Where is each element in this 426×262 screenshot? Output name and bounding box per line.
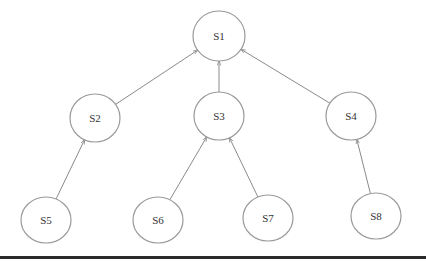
node-label: S6 <box>152 214 164 226</box>
node-label: S8 <box>370 210 382 222</box>
node-s7: S7 <box>243 195 293 241</box>
node-s4: S4 <box>326 92 376 140</box>
node-s1: S1 <box>193 11 245 61</box>
edge-s6-to-s3 <box>170 137 207 200</box>
tree-diagram: S1S2S3S4S5S6S7S8 <box>0 0 426 262</box>
edge-s8-to-s4 <box>357 139 371 193</box>
edge-s5-to-s2 <box>56 140 84 199</box>
node-label: S7 <box>262 212 274 224</box>
edge-s7-to-s3 <box>229 138 257 197</box>
node-label: S1 <box>213 30 225 42</box>
node-s5: S5 <box>21 197 71 243</box>
edge-s4-to-s1 <box>241 49 330 103</box>
node-s6: S6 <box>133 197 183 243</box>
nodes-group: S1S2S3S4S5S6S7S8 <box>21 11 401 243</box>
node-label: S3 <box>213 110 225 122</box>
edge-s2-to-s1 <box>116 50 198 104</box>
node-label: S5 <box>40 214 52 226</box>
node-s2: S2 <box>70 94 120 142</box>
node-s3: S3 <box>194 92 244 140</box>
bottom-rule <box>0 256 426 259</box>
node-label: S2 <box>89 112 101 124</box>
node-s8: S8 <box>351 193 401 239</box>
node-label: S4 <box>345 110 357 122</box>
